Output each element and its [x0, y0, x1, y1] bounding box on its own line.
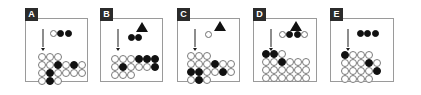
arrow-head [41, 48, 45, 51]
grid-cell-filled [219, 68, 227, 76]
stimulus-dot-filled [128, 34, 135, 41]
stimulus-dot-open [301, 31, 308, 38]
circle-grid [111, 55, 159, 79]
grid-cell-open [135, 63, 143, 71]
circle-grid [187, 52, 235, 84]
grid-cell-empty [373, 51, 381, 59]
grid-cell-open [373, 59, 381, 67]
arrow-stem [347, 29, 349, 47]
grid-cell-empty [373, 75, 381, 83]
grid-cell-open [46, 53, 54, 61]
grid-cell-open [111, 55, 119, 63]
stimulus-dot-open [205, 31, 212, 38]
arrow-stem [42, 29, 44, 47]
grid-cell-filled [341, 51, 349, 59]
stimulus-dot-filled [357, 30, 364, 37]
grid-row [187, 52, 235, 60]
stimulus-dot-row [128, 34, 143, 41]
arrow-stem [194, 29, 196, 47]
grid-row [341, 75, 381, 83]
grid-cell-open [270, 66, 278, 74]
grid-cell-open [270, 74, 278, 82]
grid-cell-filled [119, 63, 127, 71]
stimulus-dot-filled [135, 34, 142, 41]
circle-grid [262, 50, 310, 82]
grid-cell-filled [135, 55, 143, 63]
grid-cell-open [143, 63, 151, 71]
grid-cell-open [278, 50, 286, 58]
grid-cell-empty [211, 52, 219, 60]
grid-cell-open [294, 58, 302, 66]
panel-label-badge: A [25, 8, 38, 21]
grid-cell-open [62, 69, 70, 77]
grid-cell-empty [70, 77, 78, 85]
grid-cell-open [302, 74, 310, 82]
grid-row [38, 69, 86, 77]
grid-row [262, 50, 310, 58]
grid-cell-empty [151, 71, 159, 79]
grid-row [341, 59, 381, 67]
grid-row [262, 74, 310, 82]
stimulus-dot-row [50, 30, 72, 37]
grid-cell-filled [70, 61, 78, 69]
grid-cell-open [286, 66, 294, 74]
grid-cell-open [78, 69, 86, 77]
grid-cell-open [262, 66, 270, 74]
grid-cell-open [127, 55, 135, 63]
grid-cell-empty [78, 53, 86, 61]
triangle-marker-icon [136, 22, 148, 32]
grid-row [187, 60, 235, 68]
grid-cell-empty [78, 77, 86, 85]
grid-cell-open [38, 77, 46, 85]
arrow-stem [270, 29, 272, 47]
grid-cell-filled [195, 76, 203, 84]
stimulus-dot-open [279, 31, 286, 38]
panel-b: B [100, 18, 163, 82]
stimulus-dot-filled [364, 30, 371, 37]
grid-cell-open [111, 71, 119, 79]
panel-label-badge: C [177, 8, 190, 21]
grid-cell-open [62, 61, 70, 69]
grid-cell-empty [143, 71, 151, 79]
grid-row [341, 67, 381, 75]
grid-cell-filled [211, 60, 219, 68]
triangle-marker-icon [214, 21, 226, 31]
grid-cell-open [54, 77, 62, 85]
grid-cell-open [365, 67, 373, 75]
grid-row [262, 66, 310, 74]
grid-cell-filled [46, 77, 54, 85]
grid-cell-open [357, 75, 365, 83]
grid-cell-open [357, 51, 365, 59]
grid-cell-filled [46, 69, 54, 77]
grid-cell-open [357, 67, 365, 75]
grid-cell-empty [302, 50, 310, 58]
grid-cell-open [187, 76, 195, 84]
grid-cell-open [203, 68, 211, 76]
grid-cell-open [54, 69, 62, 77]
grid-cell-open [219, 60, 227, 68]
grid-cell-filled [151, 63, 159, 71]
grid-cell-open [195, 52, 203, 60]
grid-cell-open [111, 63, 119, 71]
grid-cell-empty [286, 50, 294, 58]
grid-cell-filled [270, 50, 278, 58]
stimulus-dot-filled [57, 30, 64, 37]
grid-cell-open [270, 58, 278, 66]
panel-label-badge: B [100, 8, 113, 21]
grid-cell-filled [365, 59, 373, 67]
grid-cell-open [119, 71, 127, 79]
grid-cell-filled [54, 61, 62, 69]
grid-cell-open [262, 58, 270, 66]
grid-cell-open [203, 60, 211, 68]
stimulus-dot-filled [372, 30, 379, 37]
grid-cell-open [38, 69, 46, 77]
grid-cell-empty [211, 76, 219, 84]
stimulus-dot-row [357, 30, 379, 37]
circle-grid [38, 53, 86, 85]
grid-cell-empty [219, 52, 227, 60]
grid-cell-open [302, 66, 310, 74]
grid-row [187, 76, 235, 84]
grid-row [111, 55, 159, 63]
grid-row [38, 53, 86, 61]
grid-cell-empty [227, 76, 235, 84]
